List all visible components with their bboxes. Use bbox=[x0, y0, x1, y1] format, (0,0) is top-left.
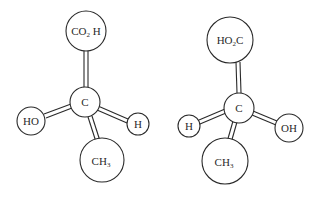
right-h-label: H bbox=[185, 120, 193, 132]
left-bond-h bbox=[97, 106, 128, 123]
right-bond-oh bbox=[252, 111, 277, 125]
left-carbon-label: C bbox=[81, 96, 88, 108]
right-bond-top bbox=[236, 62, 241, 93]
right-bond-h bbox=[199, 109, 226, 124]
enantiomer-diagram: CO2 H C HO H CH3 HO2C C H OH CH3 bbox=[0, 0, 320, 198]
left-bond-top bbox=[84, 51, 88, 88]
left-ho-label: HO bbox=[23, 115, 39, 127]
right-oh-label: OH bbox=[281, 122, 297, 134]
right-carbon-label: C bbox=[235, 102, 242, 114]
left-bond-ho bbox=[44, 104, 72, 118]
left-h-label: H bbox=[134, 118, 142, 130]
right-ho2c-label: HO2C bbox=[217, 34, 244, 48]
left-co2h-label: CO2 H bbox=[71, 25, 101, 39]
